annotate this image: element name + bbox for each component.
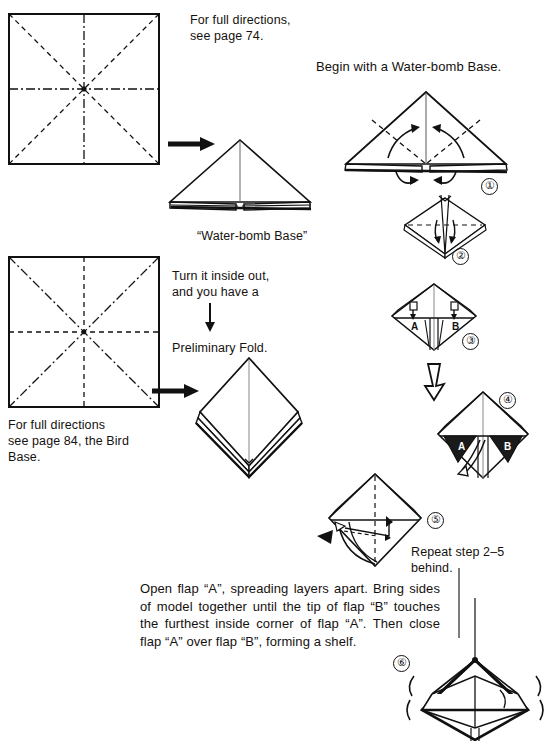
caption-water-bomb-base: “Water-bomb Base” <box>197 228 307 244</box>
step-4-figure: A B <box>428 388 538 488</box>
instruction-paragraph: Open flap “A”, spreading layers apart. B… <box>140 580 440 650</box>
water-bomb-base-triangle <box>168 138 313 220</box>
arrow-down-to-preliminary <box>202 303 218 333</box>
label-preliminary-fold: Preliminary Fold. <box>172 340 267 356</box>
svg-text:A: A <box>458 441 465 452</box>
crease-pattern-square-bird <box>8 256 160 408</box>
svg-text:B: B <box>504 441 511 452</box>
svg-text:B: B <box>452 321 459 332</box>
heading-begin-waterbomb: Begin with a Water-bomb Base. <box>316 58 501 76</box>
step-6-figure <box>408 598 547 741</box>
step-2-figure <box>400 192 490 260</box>
svg-text:A: A <box>411 321 418 332</box>
crease-pattern-square-waterbomb <box>8 13 160 165</box>
note-page-84-bird-base: For full directions see page 84, the Bir… <box>8 417 158 465</box>
preliminary-fold-diamond <box>195 355 303 480</box>
step-number-5: ⑤ <box>427 512 444 529</box>
arrow-to-preliminary-fold <box>152 382 200 400</box>
step-number-3: ③ <box>462 333 479 350</box>
note-page-74: For full directions, see page 74. <box>190 12 330 44</box>
step-number-2: ② <box>452 248 469 265</box>
step-number-6: ⑥ <box>393 655 410 672</box>
note-turn-inside-out: Turn it inside out, and you have a <box>172 268 312 300</box>
note-repeat-steps: Repeat step 2–5 behind. <box>411 544 547 576</box>
origami-instruction-page: For full directions, see page 74. “Water… <box>0 0 547 741</box>
step-number-4: ④ <box>499 392 516 409</box>
